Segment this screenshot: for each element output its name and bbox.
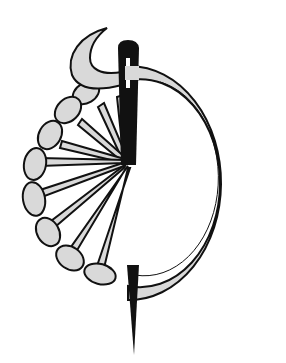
needle-point: [127, 265, 139, 355]
horn-crescent: [71, 28, 122, 88]
needle-ring-illustration: [0, 0, 286, 363]
needle-icon: [118, 40, 139, 165]
ring-band: [128, 66, 221, 300]
